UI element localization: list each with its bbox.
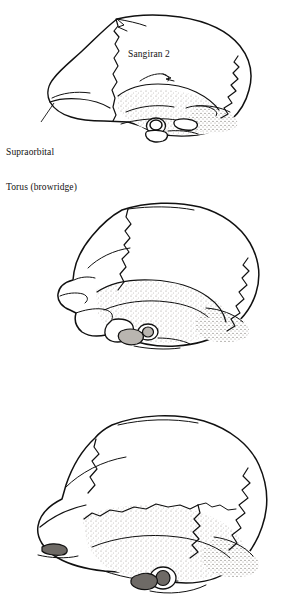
auditory-meatus-3 <box>156 571 170 586</box>
auditory-meatus-2 <box>143 327 154 337</box>
annotation-line-1: Supraorbital <box>6 147 77 159</box>
mastoid-process-1 <box>146 130 168 142</box>
mastoid-process-3 <box>131 573 158 589</box>
skull-panel-3 <box>0 395 294 608</box>
figure-sheet: Sangiran 2 Supraorbital Torus (browridge… <box>0 0 294 608</box>
specimen-label-sangiran-2: Sangiran 2 <box>128 49 170 61</box>
skull-panel-2 <box>0 180 294 395</box>
mastoid-process-2 <box>118 329 143 345</box>
skull-panel-1: Sangiran 2 Supraorbital Torus (browridge… <box>0 0 294 180</box>
skull-drawing-3 <box>0 395 294 608</box>
nasal-fragment-3 <box>42 544 67 555</box>
skull-drawing-2 <box>0 180 294 395</box>
auditory-meatus-1 <box>150 120 162 130</box>
